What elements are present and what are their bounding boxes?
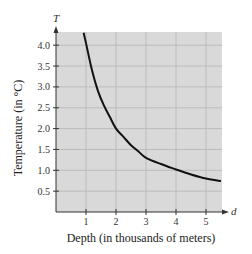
- y-axis-variable: T: [53, 12, 60, 24]
- y-tick-label: 3.5: [38, 61, 51, 72]
- plot-area: [56, 32, 222, 212]
- x-tick-label: 3: [144, 216, 149, 227]
- x-axis-title: Depth (in thousands of meters): [67, 231, 216, 245]
- temperature-depth-chart: 123450.51.01.52.02.53.03.54.0 T d Depth …: [0, 0, 252, 254]
- y-tick-label: 0.5: [38, 186, 51, 197]
- y-axis-arrow-icon: [54, 26, 59, 33]
- x-tick-label: 4: [174, 216, 179, 227]
- x-tick-label: 1: [84, 216, 89, 227]
- y-axis-title: Temperature (in °C): [11, 80, 25, 177]
- y-tick-label: 4.0: [38, 40, 51, 51]
- x-axis-arrow-icon: [222, 210, 229, 215]
- x-tick-label: 5: [204, 216, 209, 227]
- y-tick-label: 1.5: [38, 144, 51, 155]
- y-tick-label: 1.0: [38, 165, 51, 176]
- y-tick-label: 2.0: [38, 123, 51, 134]
- x-axis-variable: d: [231, 205, 237, 217]
- y-tick-label: 2.5: [38, 102, 51, 113]
- x-tick-label: 2: [114, 216, 119, 227]
- y-tick-label: 3.0: [38, 81, 51, 92]
